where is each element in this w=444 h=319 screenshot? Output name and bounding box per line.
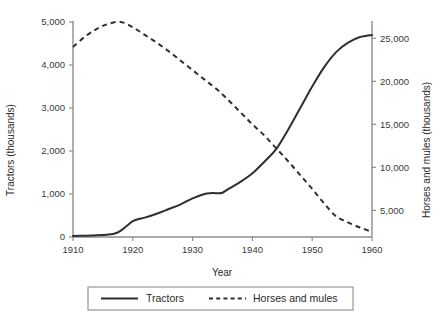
legend-label-tractors: Tractors [146,292,184,304]
bottom-tick-label: 1950 [302,244,323,255]
right-tick-label: 5,000 [380,205,404,216]
right-tick-label: 10,000 [380,162,409,173]
right-tick-label: 25,000 [380,33,409,44]
bottom-tick-label: 1930 [182,244,203,255]
left-tick-label: 2,000 [41,145,65,156]
y-axis-title: Tractors (thousands) [5,104,16,196]
chart-container: 01,0002,0003,0004,0005,000 5,00010,00015… [0,0,444,319]
bottom-tick-label: 1940 [242,244,263,255]
bottom-tick-label: 1960 [361,244,382,255]
x-axis-title: Year [212,267,233,278]
right-axis-ticks: 5,00010,00015,00020,00025,000 [372,33,409,216]
y2-axis-title: Horses and mules (thousands) [421,82,432,218]
bottom-tick-label: 1910 [62,244,83,255]
left-tick-label: 5,000 [41,16,65,27]
data-series-group [73,22,372,236]
legend-label-horses-and-mules: Horses and mules [253,292,338,304]
line-chart-figure: 01,0002,0003,0004,0005,000 5,00010,00015… [0,0,444,319]
bottom-axis-ticks: 191019201930194019501960 [62,237,382,255]
right-tick-label: 20,000 [380,76,409,87]
left-tick-label: 1,000 [41,188,65,199]
left-tick-label: 0 [60,231,65,242]
left-axis-ticks: 01,0002,0003,0004,0005,000 [41,16,73,242]
left-tick-label: 3,000 [41,102,65,113]
series-line-horses-and-mules [73,22,372,232]
bottom-tick-label: 1920 [122,244,143,255]
legend: Tractors Horses and mules [88,287,353,310]
plot-axes [73,21,372,237]
left-tick-label: 4,000 [41,59,65,70]
right-tick-label: 15,000 [380,119,409,130]
